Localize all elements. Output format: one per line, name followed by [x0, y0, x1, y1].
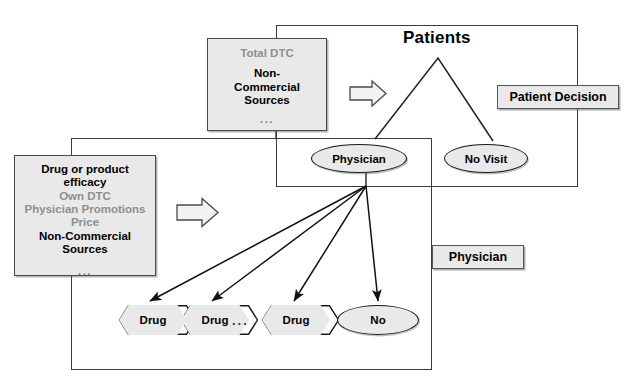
box-drug-attributes: Drug or product efficacy Own DTC Physici…: [14, 155, 156, 276]
node-no-label: No: [370, 314, 385, 326]
box-drug-ellipsis: ...: [78, 265, 92, 278]
box-drug-line-6: Sources: [62, 243, 107, 256]
box-total-dtc: Total DTC Non- Commercial Sources ...: [207, 38, 327, 131]
node-drug-ellipsis: ...: [232, 313, 249, 328]
box-drug-line-2: Own DTC: [59, 190, 111, 203]
box-total-dtc-ellipsis: ...: [260, 113, 274, 126]
box-total-dtc-line-0: Total DTC: [240, 47, 293, 60]
box-drug-line-0: Drug or product: [41, 163, 129, 176]
box-total-dtc-line-2: Commercial: [234, 81, 300, 94]
box-drug-line-4: Price: [71, 216, 99, 229]
box-drug-line-3: Physician Promotions: [25, 203, 146, 216]
node-drug-1: Drug: [119, 305, 187, 335]
node-physician: Physician: [311, 144, 407, 173]
diagram-canvas: Total DTC Non- Commercial Sources ... Dr…: [0, 0, 629, 390]
box-drug-line-1: efficacy: [64, 176, 107, 189]
box-drug-line-5: Non-Commercial: [39, 230, 131, 243]
label-patient-decision: Patient Decision: [497, 85, 619, 109]
page-title-patients: Patients: [403, 28, 471, 48]
label-physician: Physician: [432, 245, 524, 269]
node-drug-3: Drug: [262, 305, 330, 335]
node-no-visit: No Visit: [444, 144, 528, 173]
box-total-dtc-line-3: Sources: [244, 94, 289, 107]
label-patient-decision-text: Patient Decision: [509, 90, 606, 104]
label-physician-text: Physician: [449, 250, 507, 264]
node-drug-1-label: Drug: [119, 305, 187, 335]
node-physician-label: Physician: [332, 153, 386, 165]
box-total-dtc-line-1: Non-: [254, 67, 280, 80]
node-no: No: [337, 305, 419, 335]
node-no-visit-label: No Visit: [465, 153, 508, 165]
node-drug-3-label: Drug: [262, 305, 330, 335]
